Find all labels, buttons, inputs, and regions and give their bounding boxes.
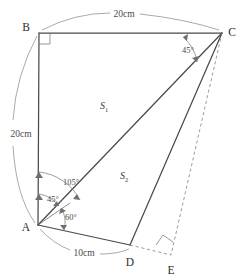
- edge-dc: [130, 33, 222, 245]
- region-label-s2: S2: [120, 170, 128, 183]
- region-s2-subscript: 2: [125, 176, 128, 183]
- region-s1-subscript: 1: [105, 106, 108, 113]
- angle-label-a-60: 60°: [65, 212, 77, 222]
- dimension-arc-ad-right: [100, 249, 129, 254]
- edge-ad: [38, 225, 130, 245]
- dimension-label-ad: 10cm: [73, 248, 95, 258]
- dimension-label-ba: 20cm: [10, 129, 32, 139]
- edge-ac: [38, 33, 222, 225]
- vertex-label-d: D: [126, 256, 134, 268]
- vertex-label-e: E: [167, 264, 174, 276]
- edge-ce-dashed: [171, 33, 222, 255]
- dimension-arc-ba-top: [13, 36, 37, 120]
- vertex-label-b: B: [22, 21, 30, 33]
- dimension-arc-ad-left: [40, 229, 70, 250]
- dimension-label-bc: 20cm: [113, 9, 135, 19]
- angle-label-a-105: 105°: [63, 177, 79, 187]
- right-angle-marker-e: [156, 235, 173, 245]
- angle-label-a-45: 45°: [47, 194, 59, 204]
- edge-de-dashed: [130, 245, 171, 255]
- vertex-label-a: A: [22, 221, 31, 233]
- dimension-arc-bc-right: [140, 14, 219, 30]
- dimension-arc-bc-left: [42, 13, 110, 30]
- angle-arrow-a-105-start: [35, 172, 43, 178]
- vertex-label-c: C: [228, 26, 236, 38]
- geometry-diagram: A B C D E 20cm 20cm 10cm 45° 105° 45° 60…: [0, 0, 246, 278]
- dimension-arc-ba-bottom: [13, 146, 35, 223]
- right-angle-marker-b: [39, 33, 50, 44]
- angle-arrow-c-start: [183, 34, 188, 41]
- angle-label-c: 45°: [182, 45, 194, 55]
- angle-arrow-a-105-end: [73, 194, 80, 200]
- angle-arrow-a-60-end: [60, 225, 67, 230]
- region-label-s1: S1: [100, 100, 108, 113]
